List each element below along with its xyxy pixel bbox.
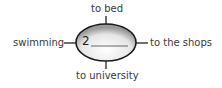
spoke-label-top: to bed xyxy=(91,3,123,15)
question-number: 2 xyxy=(82,34,90,48)
spoke-label-right: to the shops xyxy=(150,37,212,49)
spoke-label-left: swimming xyxy=(13,37,64,49)
spoke-label-bottom: to university xyxy=(76,70,139,82)
